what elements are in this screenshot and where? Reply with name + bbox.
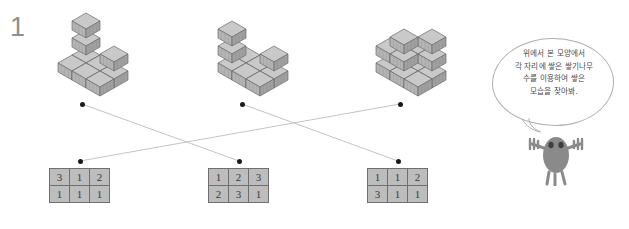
table-row: 312 <box>50 169 110 186</box>
mascot-character-icon <box>528 128 584 186</box>
bubble-line-4: 모습을 찾아봐. <box>496 86 612 99</box>
speech-bubble-text: 위에서 본 모양에서 각 자리에 쌓은 쌓기나무 수를 이용하여 쌓은 모습을 … <box>496 48 612 98</box>
grid-cell[interactable]: 3 <box>368 186 388 203</box>
grid-cell[interactable]: 2 <box>229 169 249 186</box>
connector-dot-table-2[interactable] <box>237 159 242 164</box>
top-view-number-grid-2[interactable]: 123231 <box>208 168 269 203</box>
connector-dot-shape-c[interactable] <box>398 102 403 107</box>
grid-cell[interactable]: 1 <box>249 186 269 203</box>
grid-cell[interactable]: 3 <box>229 186 249 203</box>
top-view-number-grid-1[interactable]: 312111 <box>49 168 110 203</box>
table-row: 112 <box>368 169 428 186</box>
grid-cell[interactable]: 1 <box>368 169 388 186</box>
connector-dot-shape-b[interactable] <box>240 102 245 107</box>
grid-cell[interactable]: 1 <box>50 186 70 203</box>
table-row: 123 <box>209 169 269 186</box>
connector-dot-table-3[interactable] <box>396 159 401 164</box>
grid-cell[interactable]: 2 <box>209 186 229 203</box>
stacked-cubes-shape-a <box>58 13 128 96</box>
top-view-number-grid-3[interactable]: 112311 <box>367 168 428 203</box>
bubble-line-3: 수를 이용하여 쌓은 <box>496 73 612 86</box>
grid-cell[interactable]: 1 <box>209 169 229 186</box>
stacked-cubes-shape-c <box>376 29 446 96</box>
grid-cell[interactable]: 1 <box>388 186 408 203</box>
grid-cell[interactable]: 1 <box>70 169 90 186</box>
connector-dot-shape-a[interactable] <box>80 102 85 107</box>
bubble-line-2: 각 자리에 쌓은 쌓기나무 <box>496 61 612 74</box>
bubble-line-1: 위에서 본 모양에서 <box>496 48 612 61</box>
grid-cell[interactable]: 3 <box>249 169 269 186</box>
grid-cell[interactable]: 3 <box>50 169 70 186</box>
grid-cell[interactable]: 1 <box>90 186 110 203</box>
table-row: 231 <box>209 186 269 203</box>
table-row: 311 <box>368 186 428 203</box>
grid-cell[interactable]: 1 <box>408 186 428 203</box>
table-row: 111 <box>50 186 110 203</box>
grid-cell[interactable]: 2 <box>408 169 428 186</box>
grid-cell[interactable]: 1 <box>388 169 408 186</box>
worksheet-canvas: 1 312111123231112311 위에서 본 모양에서 각 자리에 쌓은… <box>0 0 629 229</box>
grid-cell[interactable]: 1 <box>70 186 90 203</box>
stacked-cubes-shape-b <box>218 21 288 96</box>
connector-dot-table-1[interactable] <box>78 159 83 164</box>
grid-cell[interactable]: 2 <box>90 169 110 186</box>
